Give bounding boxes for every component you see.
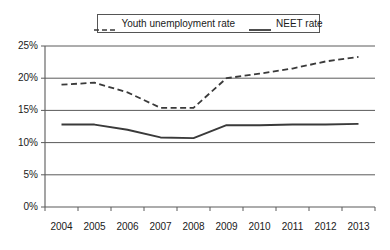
x-tick-label: 2011: [276, 222, 309, 232]
y-tick-label: 10%: [8, 138, 38, 148]
y-tick-label: 20%: [8, 73, 38, 83]
y-tick-label: 0%: [8, 202, 38, 212]
data-series-group: [62, 57, 359, 138]
series-line-youth-unemployment-rate: [62, 57, 359, 108]
x-tick-label: 2012: [309, 222, 342, 232]
y-axis: [41, 46, 45, 207]
x-tick-label: 2009: [210, 222, 243, 232]
y-tick-label: 5%: [8, 170, 38, 180]
chart-container: Youth unemployment rate NEET rate 25%20%…: [0, 0, 390, 250]
x-axis: [45, 207, 375, 211]
x-tick-label: 2005: [78, 222, 111, 232]
series-line-neet-rate: [62, 124, 359, 138]
plot-area: [0, 0, 390, 250]
x-tick-label: 2013: [342, 222, 375, 232]
x-tick-label: 2004: [45, 222, 78, 232]
x-tick-label: 2010: [243, 222, 276, 232]
x-tick-label: 2008: [177, 222, 210, 232]
gridlines: [45, 46, 375, 207]
x-tick-label: 2007: [144, 222, 177, 232]
x-tick-label: 2006: [111, 222, 144, 232]
y-tick-label: 25%: [8, 41, 38, 51]
y-tick-label: 15%: [8, 105, 38, 115]
